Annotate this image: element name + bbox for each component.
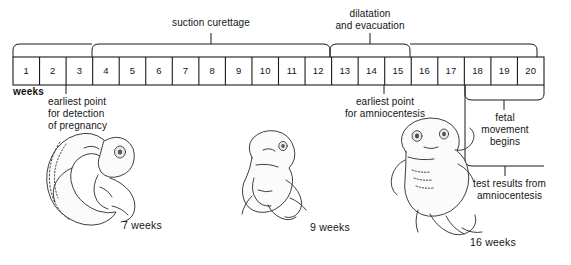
embryo-7-weeks-drawing bbox=[47, 133, 135, 225]
fetal-illustrations bbox=[0, 0, 571, 265]
caption-fetus-9-weeks: 9 weeks bbox=[310, 221, 350, 233]
caption-embryo-7-weeks: 7 weeks bbox=[122, 219, 162, 231]
fetus-9-weeks-drawing bbox=[242, 131, 306, 220]
figure-root: 1234567891011121314151617181920 weeks su… bbox=[0, 0, 571, 265]
caption-fetus-16-weeks: 16 weeks bbox=[470, 236, 516, 248]
fetus-16-weeks-drawing bbox=[391, 118, 482, 235]
